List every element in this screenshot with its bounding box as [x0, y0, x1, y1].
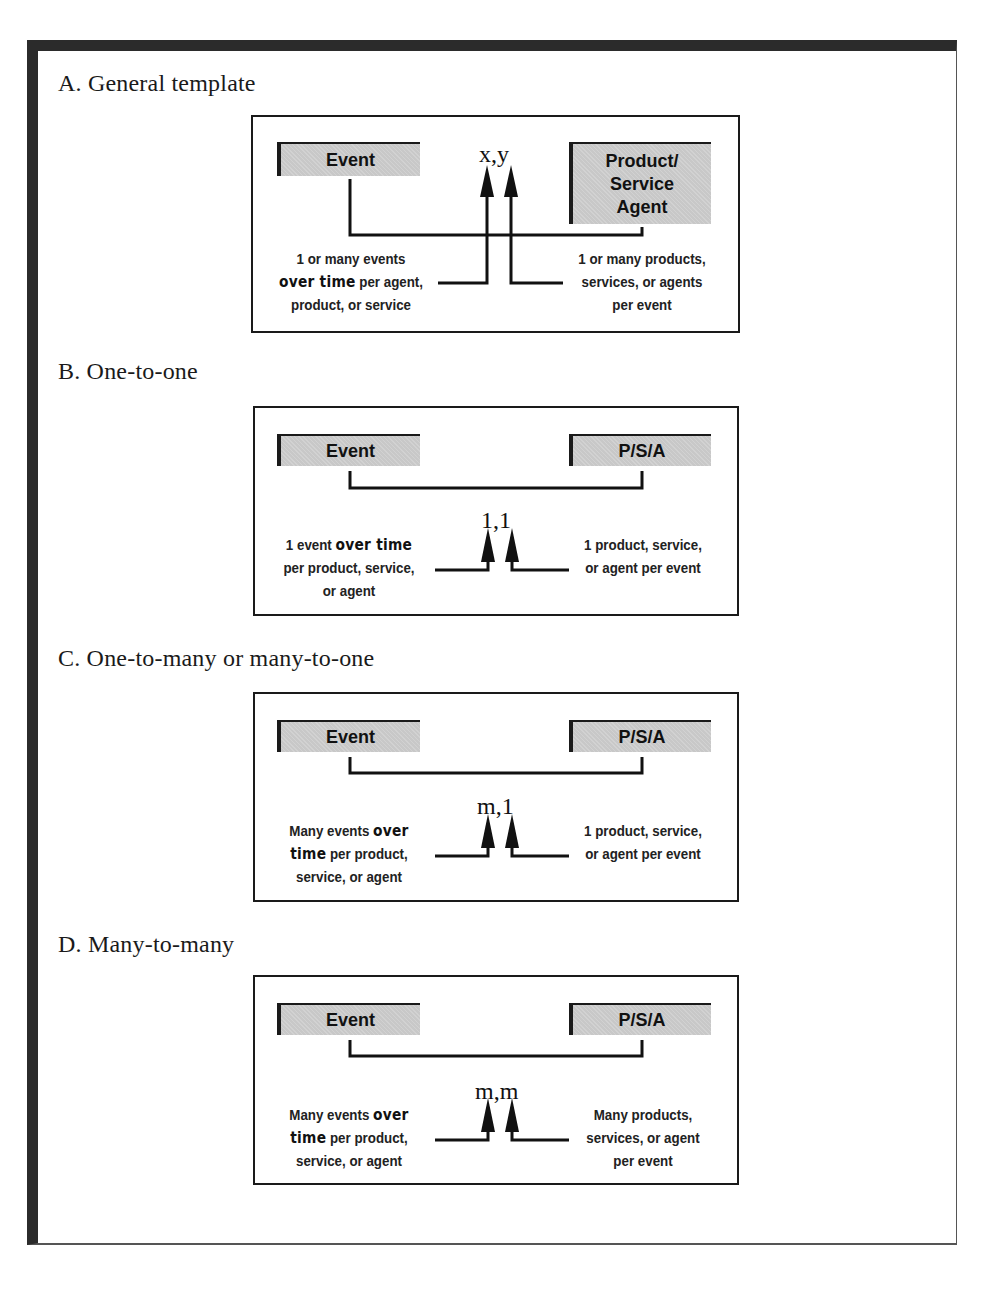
section-title-d: D. Many-to-many — [58, 931, 234, 958]
desc-line: 1 or many products, — [559, 247, 724, 270]
cardinality-label: x,y — [479, 142, 509, 166]
left-description: Many events over time per product, servi… — [266, 819, 431, 888]
event-box-label: Event — [326, 440, 375, 463]
diagram-panel-one-to-one: Event P/S/A 1,1 1 event over time per pr… — [253, 406, 739, 616]
desc-line: services, or agents — [559, 270, 724, 293]
left-arrow-line — [435, 1123, 488, 1140]
desc-line: per event — [559, 293, 724, 316]
psa-box-line: Agent — [605, 196, 678, 219]
emphasis-text: over time — [279, 272, 356, 291]
emphasis-text: time — [290, 844, 326, 863]
right-description: 1 product, service, or agent per event — [563, 819, 723, 865]
event-to-psa-connector — [350, 757, 642, 773]
diagram-panel-general-template: Event Product/ Service Agent x,y 1 or ma… — [251, 115, 740, 333]
desc-line: Many events over — [266, 819, 431, 842]
arrow-up-icon — [481, 814, 495, 848]
desc-line: Many products, — [563, 1103, 723, 1126]
desc-line: 1 or many events — [265, 247, 437, 270]
product-service-agent-box: Product/ Service Agent — [569, 142, 711, 224]
psa-box: P/S/A — [569, 1003, 711, 1035]
event-box-label: Event — [326, 726, 375, 749]
desc-line: or agent per event — [563, 556, 723, 579]
desc-line: time per product, — [266, 1126, 431, 1149]
emphasis-text: over time — [336, 535, 413, 554]
desc-line: 1 product, service, — [563, 819, 723, 842]
event-to-psa-connector — [350, 1040, 642, 1056]
desc-text: per product, — [326, 1129, 407, 1146]
cardinality-label: 1,1 — [481, 508, 511, 532]
psa-box-label: P/S/A — [618, 440, 665, 463]
emphasis-text: over — [373, 1105, 409, 1124]
desc-line: service, or agent — [266, 865, 431, 888]
section-title-c: C. One-to-many or many-to-one — [58, 645, 374, 672]
section-title-b: B. One-to-one — [58, 358, 198, 385]
emphasis-text: time — [290, 1128, 326, 1147]
desc-line: over time per agent, — [265, 270, 437, 293]
psa-box: P/S/A — [569, 720, 711, 752]
right-arrow-line — [512, 1123, 569, 1140]
right-arrow-line — [512, 553, 569, 570]
psa-box-label: P/S/A — [618, 726, 665, 749]
desc-line: per event — [563, 1149, 723, 1172]
psa-box-line: Product/ — [605, 150, 678, 173]
desc-text: Many events — [289, 1106, 373, 1123]
left-arrow-line — [435, 553, 488, 570]
event-box-label: Event — [326, 149, 375, 172]
emphasis-text: over — [373, 821, 409, 840]
desc-text: per agent, — [356, 273, 423, 290]
left-arrow-line — [435, 839, 488, 856]
left-description: 1 or many events over time per agent, pr… — [265, 247, 437, 316]
psa-box: P/S/A — [569, 434, 711, 466]
event-box: Event — [277, 1003, 420, 1035]
desc-text: Many events — [289, 822, 373, 839]
cardinality-label: m,m — [475, 1079, 518, 1103]
right-description: 1 product, service, or agent per event — [563, 533, 723, 579]
arrow-up-icon — [504, 165, 518, 197]
desc-line: or agent — [266, 579, 431, 602]
psa-box-line: Service — [605, 173, 678, 196]
diagram-panel-one-to-many: Event P/S/A m,1 Many events over time pe… — [253, 692, 739, 902]
desc-line: time per product, — [266, 842, 431, 865]
event-box: Event — [277, 720, 420, 752]
desc-text: 1 event — [286, 536, 336, 553]
desc-text: per product, — [326, 845, 407, 862]
arrow-up-icon — [481, 528, 495, 562]
event-box: Event — [277, 434, 420, 466]
right-arrow-line — [512, 839, 569, 856]
desc-line: services, or agent — [563, 1126, 723, 1149]
arrow-up-icon — [480, 165, 494, 197]
event-to-psa-connector — [350, 471, 642, 488]
diagram-panel-many-to-many: Event P/S/A m,m Many events over time pe… — [253, 975, 739, 1185]
desc-line: service, or agent — [266, 1149, 431, 1172]
arrow-up-icon — [505, 528, 519, 562]
desc-line: 1 event over time — [266, 533, 431, 556]
arrow-up-icon — [505, 814, 519, 848]
event-box: Event — [277, 142, 420, 176]
desc-line: Many events over — [266, 1103, 431, 1126]
psa-box-label: P/S/A — [618, 1009, 665, 1032]
left-description: Many events over time per product, servi… — [266, 1103, 431, 1172]
section-title-a: A. General template — [58, 70, 256, 97]
cardinality-label: m,1 — [477, 794, 514, 818]
event-box-label: Event — [326, 1009, 375, 1032]
right-description: 1 or many products, services, or agents … — [559, 247, 724, 316]
desc-line: 1 product, service, — [563, 533, 723, 556]
desc-line: per product, service, — [266, 556, 431, 579]
desc-line: product, or service — [265, 293, 437, 316]
desc-line: or agent per event — [563, 842, 723, 865]
right-description: Many products, services, or agent per ev… — [563, 1103, 723, 1172]
left-description: 1 event over time per product, service, … — [266, 533, 431, 602]
